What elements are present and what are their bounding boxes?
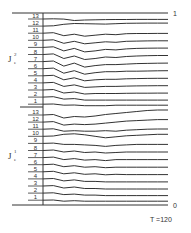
series-line-lower-4 xyxy=(43,179,168,182)
tick-label-upper-4: 4 xyxy=(34,77,38,83)
series-line-lower-12 xyxy=(43,120,168,126)
tick-label-upper-7: 7 xyxy=(34,56,38,62)
series-line-lower-5 xyxy=(43,171,168,175)
tick-label-upper-11: 11 xyxy=(32,27,39,33)
group-label-upper-sub: e xyxy=(14,60,17,65)
group-label-lower: J 1 e xyxy=(8,149,17,162)
chart-caption: T =120 xyxy=(150,216,172,223)
tick-label-upper-13: 13 xyxy=(32,13,39,19)
top-value-label: 1 xyxy=(173,10,177,17)
series-line-upper-10 xyxy=(43,40,168,44)
tick-label-lower-13: 13 xyxy=(32,109,39,115)
tick-label-lower-8: 8 xyxy=(34,145,38,151)
tick-label-upper-5: 5 xyxy=(34,70,38,76)
group-label-upper-main: J xyxy=(8,54,12,64)
group-label-lower-sup: 1 xyxy=(14,149,17,154)
series-line-upper-1 xyxy=(43,104,168,106)
series-line-lower-1 xyxy=(43,200,168,201)
tick-label-lower-9: 9 xyxy=(34,137,38,143)
series-line-lower-6 xyxy=(43,164,168,168)
series-line-upper-13 xyxy=(43,19,168,21)
tick-label-lower-6: 6 xyxy=(34,159,38,165)
tick-label-lower-5: 5 xyxy=(34,166,38,172)
series-line-upper-7 xyxy=(43,61,168,67)
series-line-upper-3 xyxy=(43,90,168,95)
series-line-upper-5 xyxy=(43,75,168,81)
tick-label-upper-9: 9 xyxy=(34,41,38,47)
series-line-lower-9 xyxy=(43,143,168,146)
tick-label-lower-12: 12 xyxy=(32,116,39,122)
group-label-lower-main: J xyxy=(8,151,12,161)
series-line-upper-12 xyxy=(43,23,168,26)
tick-label-lower-11: 11 xyxy=(32,123,39,129)
group-label-upper: J 2 e xyxy=(8,52,17,65)
tick-label-lower-7: 7 xyxy=(34,152,38,158)
tick-label-upper-12: 12 xyxy=(32,20,39,26)
series-line-lower-10 xyxy=(43,134,168,138)
series-lines xyxy=(43,19,168,201)
tick-label-upper-3: 3 xyxy=(34,84,38,90)
tick-label-lower-4: 4 xyxy=(34,173,38,179)
series-line-upper-11 xyxy=(43,33,168,37)
tick-label-upper-8: 8 xyxy=(34,49,38,55)
tick-label-lower-10: 10 xyxy=(32,130,39,136)
series-line-upper-2 xyxy=(43,97,168,100)
tick-label-lower-2: 2 xyxy=(34,187,38,193)
tick-label-upper-2: 2 xyxy=(34,91,38,97)
tick-label-upper-10: 10 xyxy=(32,34,39,40)
group-label-upper-sup: 2 xyxy=(14,52,17,57)
series-line-lower-7 xyxy=(43,157,168,161)
series-line-upper-6 xyxy=(43,68,168,74)
series-line-lower-2 xyxy=(43,193,168,196)
tick-label-lower-1: 1 xyxy=(34,194,38,200)
tick-label-upper-1: 1 xyxy=(34,98,38,104)
bottom-value-label: 0 xyxy=(173,202,177,209)
stacked-line-chart: 1 0 T =120 J 2 e J 1 e 13121110987654321… xyxy=(0,0,191,233)
tick-label-upper-6: 6 xyxy=(34,63,38,69)
series-line-upper-8 xyxy=(43,54,168,60)
series-line-upper-4 xyxy=(43,82,168,87)
group-label-lower-sub: e xyxy=(14,157,17,162)
series-line-lower-3 xyxy=(43,186,168,189)
tick-label-lower-3: 3 xyxy=(34,180,38,186)
series-line-lower-8 xyxy=(43,150,168,153)
series-line-upper-9 xyxy=(43,47,168,52)
series-line-lower-11 xyxy=(43,129,168,131)
series-line-lower-13 xyxy=(43,110,168,118)
